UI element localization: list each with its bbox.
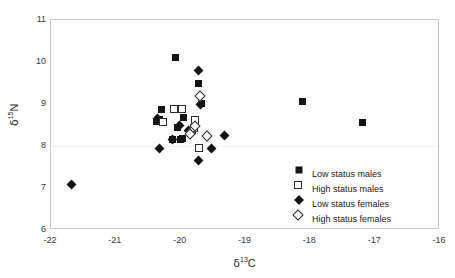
data-point-filled-square <box>179 135 186 142</box>
legend-label: High status males <box>312 184 384 194</box>
data-point-filled-square <box>359 119 366 126</box>
data-point-filled-square <box>180 114 187 121</box>
legend-label: Low status females <box>312 199 389 209</box>
x-axis-title: δ13C <box>50 256 439 270</box>
data-point-filled-square <box>299 98 306 105</box>
scatter-plot-figure: 67891011 -22-21-20-19-18-17-16 δ13C δ15N… <box>0 0 455 278</box>
data-point-filled-diamond <box>194 156 204 166</box>
x-tick-label: -19 <box>225 236 265 245</box>
legend-marker-open-diamond-icon <box>296 213 308 225</box>
data-point-filled-diamond <box>207 143 217 153</box>
legend-item-3: High status females <box>296 211 436 226</box>
data-point-open-square <box>159 118 167 126</box>
data-point-filled-square <box>195 80 202 87</box>
y-tick-label: 10 <box>18 57 46 66</box>
chart-legend: Low status malesHigh status malesLow sta… <box>296 166 436 226</box>
x-tick-label: -16 <box>419 236 455 245</box>
legend-item-0: Low status males <box>296 166 436 181</box>
legend-marker-filled-diamond-icon <box>296 198 308 210</box>
data-point-open-diamond <box>201 130 212 141</box>
x-tick-label: -21 <box>95 236 135 245</box>
x-axis-element: C <box>248 257 256 269</box>
y-tick-label: 8 <box>18 141 46 150</box>
data-point-open-square <box>195 144 203 152</box>
legend-label: High status females <box>312 214 391 224</box>
x-axis-tick-labels: -22-21-20-19-18-17-16 <box>50 236 439 250</box>
x-tick-label: -18 <box>289 236 329 245</box>
y-axis-superscript: 15 <box>7 112 14 120</box>
x-tick-label: -17 <box>354 236 394 245</box>
data-point-filled-square <box>172 54 179 61</box>
legend-marker-filled-square-icon <box>296 168 308 180</box>
x-axis-superscript: 13 <box>240 256 248 263</box>
data-point-open-square <box>178 105 186 113</box>
data-point-filled-diamond <box>220 131 230 141</box>
data-point-filled-diamond <box>67 180 77 190</box>
legend-label: Low status males <box>312 169 382 179</box>
x-tick-label: -20 <box>160 236 200 245</box>
y-axis-delta-symbol: δ <box>8 119 21 126</box>
y-tick-label: 7 <box>18 183 46 192</box>
y-tick-label: 6 <box>18 225 46 234</box>
legend-marker-open-square-icon <box>296 183 308 195</box>
y-axis-title: δ15N <box>7 75 21 155</box>
y-axis-element: N <box>8 104 20 112</box>
x-axis-delta-symbol: δ <box>233 257 240 270</box>
data-point-filled-diamond <box>193 65 203 75</box>
gridline-y-8 <box>51 146 438 147</box>
legend-item-1: High status males <box>296 181 436 196</box>
y-tick-label: 9 <box>18 99 46 108</box>
data-point-filled-diamond <box>154 143 164 153</box>
legend-item-2: Low status females <box>296 196 436 211</box>
data-point-filled-square <box>158 106 165 113</box>
y-tick-label: 11 <box>18 15 46 24</box>
x-tick-label: -22 <box>30 236 70 245</box>
